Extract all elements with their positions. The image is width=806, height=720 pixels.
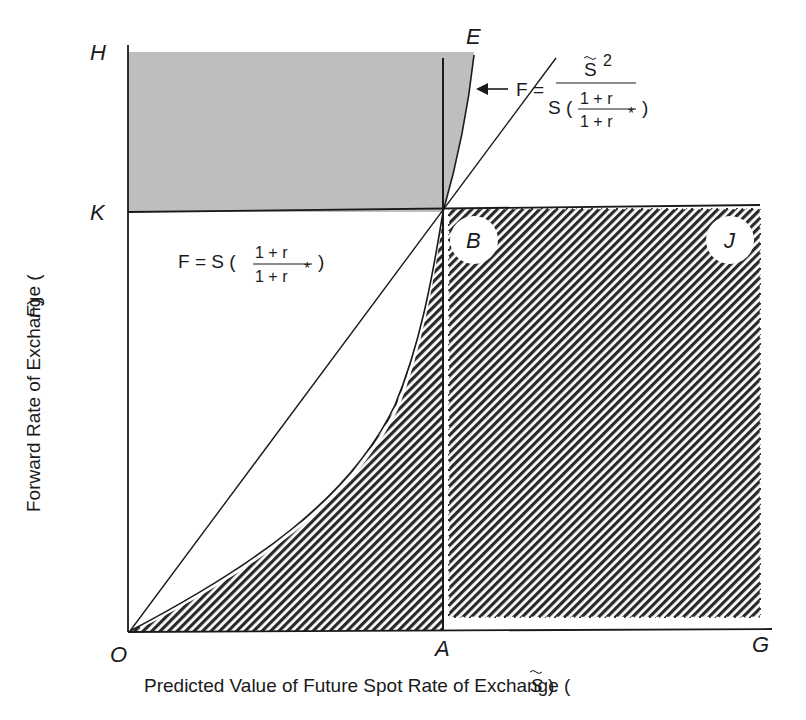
label-k: K [90,200,106,225]
y-axis-title-symbol: F [23,305,44,318]
arrow-head-icon [476,83,488,95]
label-j: J [723,228,736,253]
curve-eq-star: * [628,105,634,122]
hatched-rectangle-region [448,208,761,618]
curve-eq-lhs: F = [516,79,544,100]
curve-eq-inner-num: 1 + r [580,90,613,107]
line-equation: F = S ( 1 + r 1 + r * ) [178,244,324,285]
curve-equation: F = S 2 S ( 1 + r 1 + r * ) [516,52,648,130]
curve-eq-den-lhs: S ( [548,97,573,118]
line-eq-star: * [304,260,310,277]
x-axis-title-close: ) [548,675,554,696]
label-e: E [466,24,481,49]
line-eq-close: ) [318,251,324,272]
label-h: H [90,40,106,65]
curve-eq-num-base: S [584,59,597,80]
curve-eq-close: ) [642,97,648,118]
line-eq-num: 1 + r [255,244,288,261]
line-eq-lhs: F = S ( [178,251,236,272]
y-axis-title: Forward Rate of Exchange ( F ) [23,274,44,512]
x-axis-title: Predicted Value of Future Spot Rate of E… [144,671,571,697]
label-g: G [752,632,769,657]
x-axis-title-symbol: S [530,675,543,696]
label-b: B [466,228,481,253]
label-a: A [433,636,450,661]
curve-eq-inner-den: 1 + r [580,113,613,130]
x-axis-title-main: Predicted Value of Future Spot Rate of E… [144,675,571,696]
y-axis-title-close: ) [23,299,44,305]
label-o: O [110,642,127,667]
grey-grain-overlay [128,52,474,212]
exchange-rate-diagram: H K O A G E B J F = S ( 1 + r 1 + r * ) … [0,0,806,720]
curve-eq-num-exp: 2 [603,52,612,69]
line-eq-den: 1 + r [255,268,288,285]
